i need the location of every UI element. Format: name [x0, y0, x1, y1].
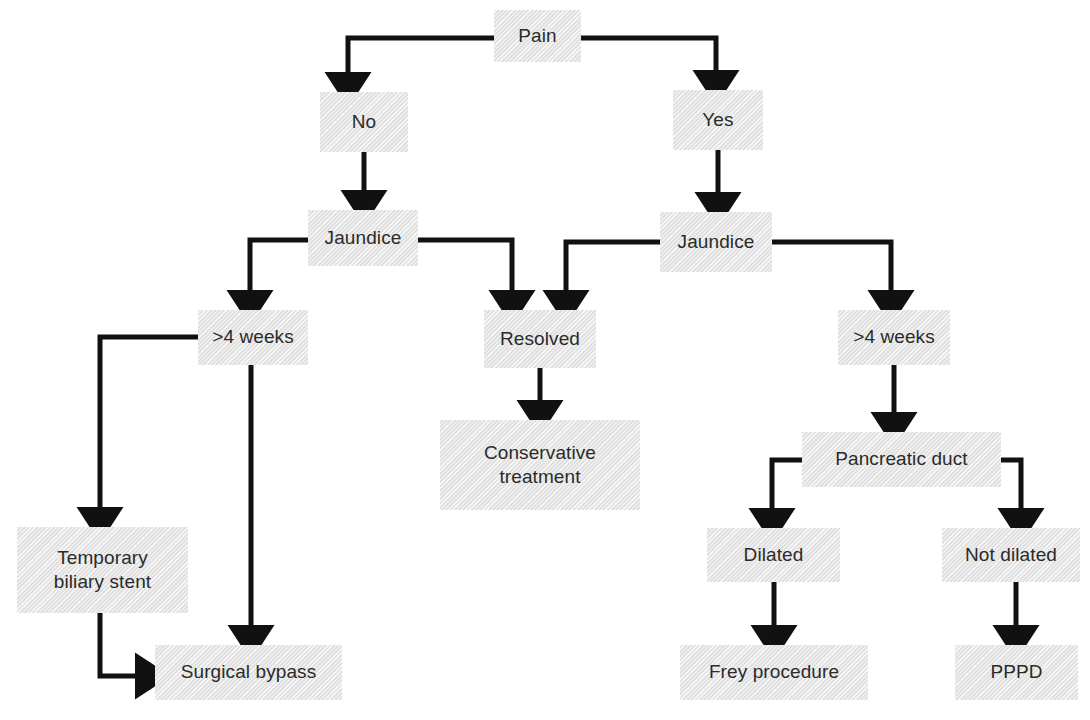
- node-label: Surgical bypass: [181, 660, 317, 684]
- node-label: Jaundice: [678, 230, 755, 254]
- node-label: Temporary biliary stent: [54, 546, 151, 595]
- node-pancreatic-duct[interactable]: Pancreatic duct: [802, 432, 1001, 487]
- edge-pancreatic-duct-to-dilated: [772, 460, 802, 514]
- edge-jaundice-left-to-resolved: [418, 240, 512, 296]
- node-yes[interactable]: Yes: [673, 90, 763, 150]
- node-jaundice-right[interactable]: Jaundice: [660, 212, 772, 272]
- node-resolved[interactable]: Resolved: [484, 310, 596, 368]
- node-pain[interactable]: Pain: [494, 10, 581, 62]
- node-label: Pain: [518, 24, 556, 48]
- edge-weeks-left-to-temporary-stent: [100, 337, 198, 513]
- node-label: Frey procedure: [709, 660, 839, 684]
- node-label: >4 weeks: [853, 325, 935, 349]
- edge-pain-to-yes: [581, 38, 716, 76]
- node-dilated[interactable]: Dilated: [707, 528, 840, 582]
- flowchart-canvas: Pain No Yes Jaundice Jaundice >4 weeks R…: [0, 0, 1090, 720]
- edge-jaundice-left-to-weeks-left: [250, 240, 308, 296]
- node-surgical-bypass[interactable]: Surgical bypass: [155, 645, 342, 700]
- node-label: Pancreatic duct: [835, 447, 967, 471]
- node-frey-procedure[interactable]: Frey procedure: [680, 645, 868, 700]
- node-weeks-right[interactable]: >4 weeks: [838, 310, 950, 365]
- node-no[interactable]: No: [320, 92, 408, 152]
- node-label: No: [352, 110, 377, 134]
- node-label: Conservative treatment: [484, 441, 596, 490]
- edge-temporary-stent-to-surgical-bypass: [100, 613, 141, 676]
- node-temporary-biliary-stent[interactable]: Temporary biliary stent: [17, 527, 188, 613]
- node-label: Yes: [702, 108, 733, 132]
- node-jaundice-left[interactable]: Jaundice: [308, 210, 418, 266]
- node-pppd[interactable]: PPPD: [955, 645, 1078, 700]
- edge-pancreatic-duct-to-not-dilated: [1001, 460, 1021, 514]
- node-label: >4 weeks: [212, 325, 294, 349]
- node-label: Dilated: [744, 543, 804, 567]
- node-weeks-left[interactable]: >4 weeks: [198, 310, 308, 365]
- node-label: Not dilated: [965, 543, 1057, 567]
- edge-jaundice-right-to-weeks-right: [772, 242, 891, 296]
- node-label: PPPD: [990, 660, 1042, 684]
- node-conservative-treatment[interactable]: Conservative treatment: [440, 420, 640, 510]
- edge-pain-to-no: [348, 38, 494, 78]
- node-label: Resolved: [500, 327, 580, 351]
- node-not-dilated[interactable]: Not dilated: [942, 528, 1080, 582]
- edge-jaundice-right-to-resolved: [566, 242, 660, 296]
- node-label: Jaundice: [325, 226, 402, 250]
